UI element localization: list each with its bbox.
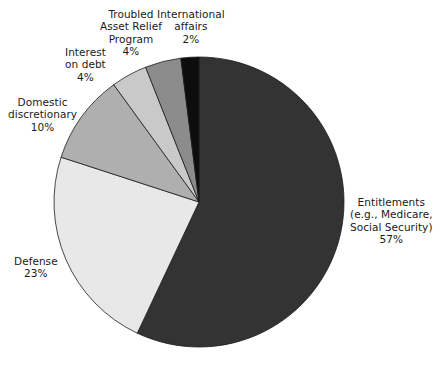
slice-label-troubled-asset-relief-program: TroubledAsset ReliefProgram4% [100,8,162,58]
pie-slice-group [54,57,344,347]
interest-on-debt-line-1: on debt [65,58,106,70]
troubled-asset-relief-program-line-1: Asset Relief [100,20,162,32]
domestic-discretionary-line-0: Domestic [8,96,77,108]
slice-label-entitlements: Entitlements(e.g., Medicare,Social Secur… [350,196,433,246]
interest-on-debt-line-2: 4% [65,71,106,83]
entitlements-line-0: Entitlements [350,196,433,208]
troubled-asset-relief-program-line-3: 4% [100,45,162,57]
slice-label-international-affairs: Internationalaffairs2% [157,8,225,45]
defense-line-1: 23% [14,267,58,279]
slice-label-domestic-discretionary: Domesticdiscretionary10% [8,96,77,133]
defense-line-0: Defense [14,255,58,267]
entitlements-line-3: 57% [350,233,433,245]
slice-label-defense: Defense23% [14,255,58,280]
entitlements-line-2: Social Security) [350,221,433,233]
pie-chart-figure: Entitlements(e.g., Medicare,Social Secur… [0,0,441,366]
domestic-discretionary-line-2: 10% [8,121,77,133]
entitlements-line-1: (e.g., Medicare, [350,208,433,220]
international-affairs-line-2: 2% [157,33,225,45]
troubled-asset-relief-program-line-0: Troubled [100,8,162,20]
international-affairs-line-1: affairs [157,20,225,32]
domestic-discretionary-line-1: discretionary [8,108,77,120]
international-affairs-line-0: International [157,8,225,20]
troubled-asset-relief-program-line-2: Program [100,33,162,45]
